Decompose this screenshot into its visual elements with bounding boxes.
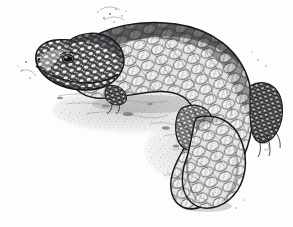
lizard-illustration-svg [0,0,293,227]
illustration-plate [0,0,293,227]
nostril [38,58,41,60]
